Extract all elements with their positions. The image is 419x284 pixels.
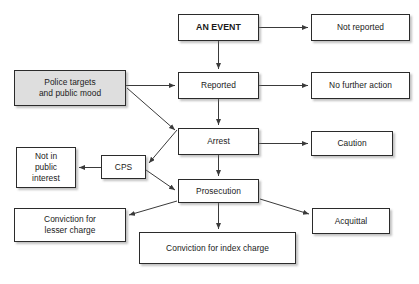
node-label-caution: Caution xyxy=(334,138,369,149)
edge-arrest-to-cps xyxy=(149,130,177,163)
node-reported[interactable]: Reported xyxy=(178,72,259,99)
node-label-arrest: Arrest xyxy=(204,136,233,147)
edge-prosecution-to-acquittal xyxy=(260,199,309,214)
node-label-police-targets: Police targets and public mood xyxy=(36,77,104,99)
node-label-cps: CPS xyxy=(112,162,135,173)
node-label-not-in-public-interest: Not in public interest xyxy=(29,151,63,184)
node-arrest[interactable]: Arrest xyxy=(178,128,259,155)
node-police-targets[interactable]: Police targets and public mood xyxy=(14,70,126,106)
node-acquittal[interactable]: Acquittal xyxy=(312,208,390,234)
edge-prosecution-to-conviction-lesser xyxy=(129,201,177,215)
node-not-in-public-interest[interactable]: Not in public interest xyxy=(16,147,76,188)
node-label-reported: Reported xyxy=(198,80,239,91)
node-label-conviction-lesser-charge: Conviction for lesser charge xyxy=(41,214,99,236)
node-cps[interactable]: CPS xyxy=(101,155,146,179)
node-label-acquittal: Acquittal xyxy=(332,216,371,227)
node-label-no-further-action: No further action xyxy=(326,80,395,91)
flowchart-canvas: AN EVENTNot reportedPolice targets and p… xyxy=(0,0,419,284)
node-label-not-reported: Not reported xyxy=(334,22,387,33)
node-prosecution[interactable]: Prosecution xyxy=(178,179,259,203)
node-not-reported[interactable]: Not reported xyxy=(311,14,410,41)
node-conviction-lesser-charge[interactable]: Conviction for lesser charge xyxy=(14,208,126,242)
edge-cps-to-prosecution xyxy=(146,170,175,190)
node-label-prosecution: Prosecution xyxy=(193,186,244,197)
node-an-event[interactable]: AN EVENT xyxy=(178,14,259,41)
node-caution[interactable]: Caution xyxy=(311,131,393,156)
node-label-conviction-index-charge: Conviction for index charge xyxy=(163,243,272,254)
node-conviction-index-charge[interactable]: Conviction for index charge xyxy=(139,232,296,264)
edge-police-to-arrest xyxy=(127,88,175,130)
node-no-further-action[interactable]: No further action xyxy=(311,72,410,99)
node-label-an-event: AN EVENT xyxy=(193,22,244,33)
